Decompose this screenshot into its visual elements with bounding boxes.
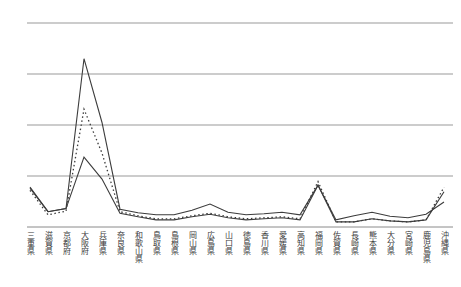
x-axis-label: 島根県 bbox=[169, 231, 178, 255]
x-axis-label: 和歌山県 bbox=[133, 231, 142, 263]
dotted-line bbox=[30, 109, 444, 222]
x-axis-label: 三重県 bbox=[25, 231, 34, 255]
x-axis-label: 高知県 bbox=[295, 231, 304, 255]
line-chart: 三重県滋賀県京都府大阪府兵庫県奈良県和歌山県鳥取県島根県岡山県広島県山口県徳島県… bbox=[0, 0, 461, 287]
x-axis-label: 愛媛県 bbox=[277, 231, 286, 255]
x-axis-label: 兵庫県 bbox=[97, 231, 106, 255]
x-axis-label: 山口県 bbox=[223, 231, 232, 255]
x-axis-label: 鹿児島県 bbox=[421, 231, 430, 263]
x-axis-label: 宮崎県 bbox=[403, 231, 412, 255]
x-axis-label: 大阪府 bbox=[79, 231, 88, 255]
solid-line-lower bbox=[30, 157, 444, 222]
x-axis-label: 長崎県 bbox=[349, 231, 358, 255]
series-lines-group bbox=[30, 59, 444, 222]
x-axis-label: 佐賀県 bbox=[331, 231, 340, 255]
solid-line-upper bbox=[30, 59, 444, 220]
x-axis-label: 熊本県 bbox=[367, 231, 376, 255]
x-axis-label: 滋賀県 bbox=[43, 231, 52, 255]
x-axis-label: 京都府 bbox=[61, 231, 70, 255]
x-axis-label: 岡山県 bbox=[187, 231, 196, 255]
x-axis-label: 徳島県 bbox=[241, 231, 250, 255]
x-axis-label: 沖縄県 bbox=[439, 231, 448, 255]
x-axis-label: 大分県 bbox=[385, 231, 394, 255]
x-axis-label: 奈良県 bbox=[115, 231, 124, 255]
x-axis-label: 香川県 bbox=[259, 231, 268, 255]
x-axis-label: 鳥取県 bbox=[151, 231, 160, 255]
x-axis-label: 広島県 bbox=[205, 231, 214, 255]
x-axis-label: 福岡県 bbox=[313, 231, 322, 255]
